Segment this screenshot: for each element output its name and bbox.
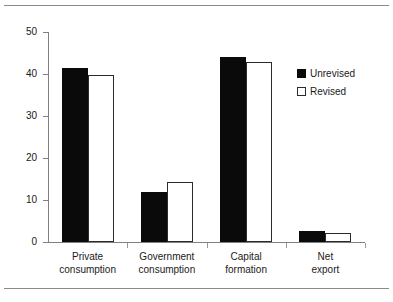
category-label-line: Net <box>286 250 365 263</box>
y-axis-tick-label: 10 <box>0 195 37 205</box>
filled-square-icon <box>297 69 306 78</box>
legend-item-revised[interactable]: Revised <box>297 84 355 99</box>
bar-unrevised-3[interactable] <box>299 231 325 242</box>
legend-label: Unrevised <box>310 68 355 79</box>
y-axis-tick-label: 50 <box>0 27 37 37</box>
legend-label: Revised <box>310 86 346 97</box>
bottom-divider-rule <box>4 288 389 289</box>
bar-revised-2[interactable] <box>246 62 272 242</box>
x-axis-category-label: Capitalformation <box>207 250 286 276</box>
category-label-line: Capital <box>207 250 286 263</box>
x-axis-category-label: Netexport <box>286 250 365 276</box>
x-axis-tick <box>286 243 287 248</box>
plot-area <box>48 32 365 242</box>
bar-revised-1[interactable] <box>167 182 193 242</box>
bar-revised-3[interactable] <box>325 233 351 242</box>
top-divider-rule <box>4 5 389 6</box>
x-axis-tick <box>127 243 128 248</box>
y-axis-tick <box>43 242 49 243</box>
legend-item-unrevised[interactable]: Unrevised <box>297 66 355 81</box>
category-label-line: export <box>286 263 365 276</box>
chart-legend: Unrevised Revised <box>297 66 355 102</box>
chart-figure: 01020304050 Unrevised Revised Privatecon… <box>0 0 393 302</box>
category-label-line: consumption <box>48 263 127 276</box>
x-axis-category-label: Privateconsumption <box>48 250 127 276</box>
bar-revised-0[interactable] <box>88 75 114 242</box>
y-axis-tick-label: 40 <box>0 69 37 79</box>
y-axis-tick-label: 20 <box>0 153 37 163</box>
x-axis-tick <box>365 243 366 248</box>
y-axis-tick-label: 0 <box>0 237 37 247</box>
x-axis-category-label: Governmentconsumption <box>127 250 206 276</box>
y-axis-tick-label: 30 <box>0 111 37 121</box>
category-label-line: Private <box>48 250 127 263</box>
category-label-line: Government <box>127 250 206 263</box>
category-label-line: consumption <box>127 263 206 276</box>
bar-unrevised-1[interactable] <box>141 192 167 242</box>
x-axis-tick <box>207 243 208 248</box>
category-label-line: formation <box>207 263 286 276</box>
hollow-square-icon <box>297 87 306 96</box>
bar-unrevised-2[interactable] <box>220 57 246 242</box>
bar-unrevised-0[interactable] <box>62 68 88 242</box>
